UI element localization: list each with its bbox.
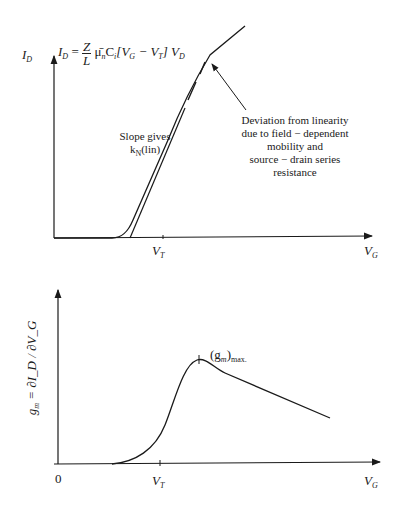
linear-extrapolation-dashes xyxy=(188,62,205,100)
deviation-note: Deviation from linearity due to field − … xyxy=(220,114,370,179)
bottom-plot-axes xyxy=(54,290,380,466)
top-y-axis-label: ID xyxy=(22,48,32,64)
bottom-y-axis-label: gm = ∂I_D / ∂V_G xyxy=(25,321,41,416)
bottom-vt-label: VT xyxy=(152,474,164,490)
gm-curve xyxy=(112,359,330,464)
top-vt-label: VT xyxy=(152,244,164,260)
diagram-canvas xyxy=(0,0,403,515)
bottom-x-axis-label: VG xyxy=(364,474,378,490)
gm-max-label: (gm)max. xyxy=(210,348,247,364)
linear-region-equation: ID = ZL μ̄nCi[VG − VT] VD xyxy=(58,40,185,67)
linear-extrapolation-dashed-line xyxy=(130,108,185,238)
origin-label: 0 xyxy=(55,472,62,485)
deviation-arrow xyxy=(212,64,246,110)
slope-note: Slope gives kN(lin) xyxy=(110,130,180,160)
top-x-axis-label: VG xyxy=(364,244,378,260)
